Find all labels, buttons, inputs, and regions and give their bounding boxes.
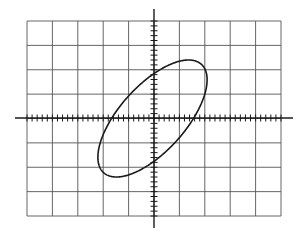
oscilloscope-screen xyxy=(0,0,307,234)
